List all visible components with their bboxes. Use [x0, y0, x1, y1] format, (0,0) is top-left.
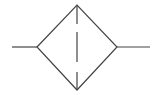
filter-symbol-diagram — [0, 0, 159, 95]
